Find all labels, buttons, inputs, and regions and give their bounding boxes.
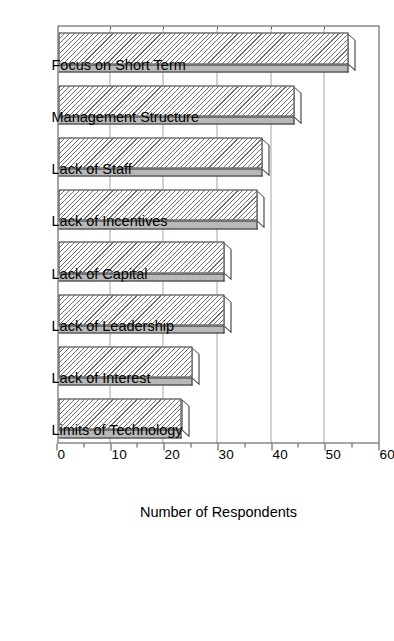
tick-minor-5 [83,443,84,447]
category-label: Limits of Technology [51,422,182,437]
tick-minor-45 [298,443,299,447]
tick-label-0: 0 [57,447,65,461]
tick-label-text: 30 [218,447,233,461]
tick-minor-15 [137,443,138,447]
category-label: Management Structure [51,109,199,124]
category-label: Lack of Capital [51,266,147,281]
tick-label-50: 50 [325,447,340,461]
tick-minor-25 [190,443,191,447]
value-axis-title: Number of Respondents [57,503,379,523]
tick-label-60: 60 [379,447,394,461]
category-label: Lack of Interest [51,370,150,385]
category-label: Lack of Incentives [51,213,167,228]
category-label: Focus on Short Term [51,57,185,72]
tick-minor-55 [351,443,352,447]
tick-label-text: 0 [57,447,65,461]
category-axis: Focus on Short TermManagement StructureL… [0,25,57,443]
rotated-chart-stage: 0102030405060 Number of Respondents Focu… [0,0,394,641]
category-label: Lack of Staff [51,161,131,176]
tick-label-text: 60 [379,447,394,461]
tick-label-10: 10 [111,447,126,461]
bar-chart-figure: 0102030405060 Number of Respondents Focu… [0,0,394,641]
tick-minor-35 [244,443,245,447]
category-label: Lack of Leadership [51,318,174,333]
tick-label-text: 20 [164,447,179,461]
tick-label-text: 40 [272,447,287,461]
tick-label-20: 20 [164,447,179,461]
tick-label-40: 40 [272,447,287,461]
tick-label-30: 30 [218,447,233,461]
tick-label-text: 50 [325,447,340,461]
tick-label-text: 10 [111,447,126,461]
